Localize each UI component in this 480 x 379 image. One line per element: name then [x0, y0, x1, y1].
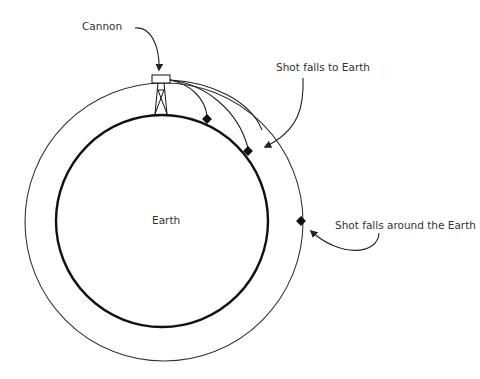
- orbit-marker: [296, 216, 306, 226]
- trajectories: [170, 80, 262, 148]
- earth-label: Earth: [152, 214, 180, 226]
- shot-falls-around-label: Shot falls around the Earth: [335, 219, 476, 231]
- trajectory-long: [170, 80, 262, 130]
- shot-falls-around-arrow: [311, 231, 379, 250]
- shot-falls-to-earth-arrow: [265, 78, 303, 147]
- cannon-tower: [155, 83, 167, 114]
- cannon-label: Cannon: [82, 20, 122, 32]
- cannonball-diagram: Earth Cannon Shot falls to Earth Shot fa…: [0, 0, 480, 379]
- shot-falls-to-earth-label: Shot falls to Earth: [276, 61, 370, 73]
- cannon: [152, 75, 170, 83]
- cannon-arrow: [135, 28, 159, 70]
